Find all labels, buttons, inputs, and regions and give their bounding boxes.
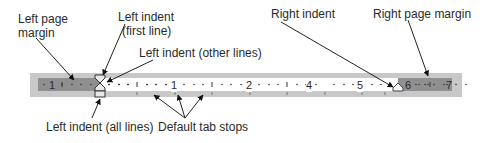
callout-arrows (36, 20, 428, 118)
ruler-number-4: 4 (306, 78, 312, 92)
ruler-number-6: 6 (405, 78, 411, 92)
default-tab-stop-marks (137, 92, 385, 95)
ruler-dots (43, 84, 467, 86)
ruler-number-1: 1 (171, 78, 177, 92)
ruler-number-left-1: 1 (49, 78, 55, 92)
hanging-indent-marker (95, 83, 105, 91)
ruler-number-2: 2 (246, 78, 252, 92)
ruler-overlay (0, 0, 490, 143)
first-line-indent-marker (95, 75, 105, 83)
left-indent-box-marker (95, 91, 105, 97)
ruler-number-7: 7 (446, 78, 452, 92)
ruler-number-5: 5 (357, 78, 363, 92)
right-indent-marker (393, 83, 403, 91)
left-indent-markers (95, 75, 105, 97)
